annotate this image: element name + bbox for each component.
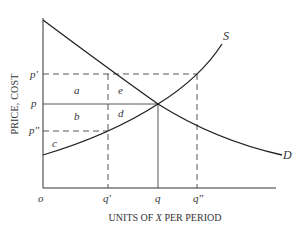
y-axis-title: PRICE, COST [9,73,20,134]
tick-p: p [31,98,37,109]
tick-p-prime: p' [30,69,38,80]
region-d: d [118,108,124,119]
tick-q-prime: q' [103,193,111,204]
supply-label: S [223,30,229,42]
region-a: a [74,85,80,96]
region-c: c [52,138,57,149]
tick-p-double-prime: p'' [29,125,39,136]
x-axis-title: UNITS OF X PER PERIOD [109,212,222,223]
region-e: e [118,85,123,96]
x-axis-title-prefix: UNITS OF [109,212,156,223]
tick-q-double-prime: q'' [193,193,203,204]
supply-curve [43,44,222,155]
tick-q: q [155,193,161,204]
region-b: b [74,111,80,122]
tick-origin: o [38,193,44,204]
supply-demand-diagram [0,0,302,225]
demand-label: D [283,149,292,161]
x-axis-title-suffix: PER PERIOD [162,212,221,223]
